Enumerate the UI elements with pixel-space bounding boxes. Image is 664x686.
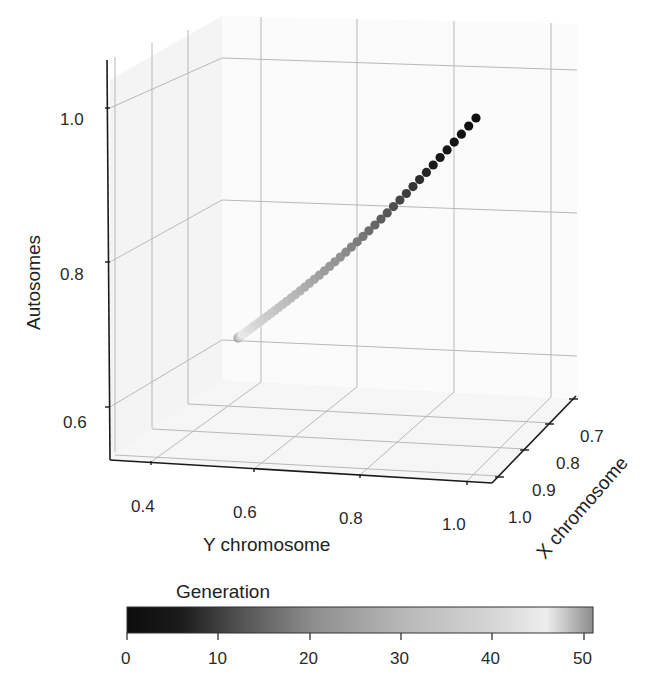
data-point bbox=[457, 130, 466, 139]
data-point bbox=[402, 189, 411, 198]
chart-3d: 1.0 0.8 0.6 0.4 0.6 0.8 1.0 0.7 0.8 0.9 … bbox=[0, 0, 664, 686]
colorbar: Generation 0 10 20 30 40 50 bbox=[121, 581, 593, 668]
colorbar-title: Generation bbox=[176, 581, 270, 602]
data-point bbox=[464, 122, 473, 131]
colorbar-tick-label: 30 bbox=[390, 649, 409, 668]
data-point bbox=[450, 138, 459, 147]
y-tick-labels: 0.4 0.6 0.8 1.0 bbox=[131, 497, 466, 534]
y-tick-label: 0.8 bbox=[339, 509, 363, 528]
y-tick-label: 0.6 bbox=[233, 503, 257, 522]
z-tick-labels: 1.0 0.8 0.6 bbox=[60, 110, 87, 432]
y-tick-label: 0.4 bbox=[131, 497, 155, 516]
colorbar-tick-label: 40 bbox=[481, 649, 500, 668]
colorbar-tick-label: 0 bbox=[121, 649, 130, 668]
z-tick-label: 1.0 bbox=[60, 110, 84, 129]
x-tick-label: 0.7 bbox=[580, 427, 604, 446]
z-tick-label: 0.8 bbox=[60, 265, 84, 284]
y-tick-label: 1.0 bbox=[442, 515, 466, 534]
colorbar-tick-label: 20 bbox=[299, 649, 318, 668]
x-tick-label: 1.0 bbox=[508, 508, 532, 527]
back-pane bbox=[222, 16, 577, 399]
colorbar-tick-label: 50 bbox=[573, 649, 592, 668]
x-tick-label: 0.9 bbox=[532, 481, 556, 500]
z-axis-label: Autosomes bbox=[23, 235, 44, 330]
z-axis-line bbox=[107, 60, 110, 460]
data-point bbox=[429, 160, 438, 169]
data-point bbox=[408, 182, 417, 191]
z-tick-label: 0.6 bbox=[63, 413, 87, 432]
colorbar-tick-label: 10 bbox=[208, 649, 227, 668]
data-point bbox=[395, 196, 404, 205]
data-point bbox=[415, 175, 424, 184]
y-axis-label: Y chromosome bbox=[203, 534, 330, 555]
data-point bbox=[422, 168, 431, 177]
x-axis-label: X chromosome bbox=[532, 452, 632, 562]
data-point bbox=[443, 145, 452, 154]
colorbar-gradient bbox=[127, 607, 593, 633]
data-point bbox=[471, 113, 480, 122]
data-point bbox=[436, 153, 445, 162]
x-tick-label: 0.8 bbox=[556, 454, 580, 473]
